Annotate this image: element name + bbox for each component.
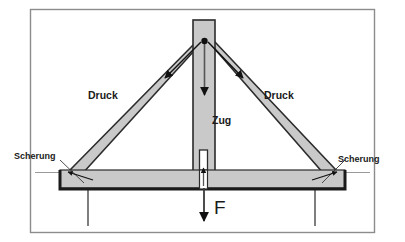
label-tension-center: Zug [212,115,231,126]
label-force: F [214,198,226,217]
truss-diagram [0,0,405,242]
label-shear-left: Scherung [14,152,56,161]
label-compression-right: Druck [264,90,294,101]
apex-joint-node [201,38,207,44]
label-shear-right: Scherung [338,155,380,164]
diagram-canvas: Druck Druck Zug Scherung Scherung F [0,0,405,242]
label-compression-left: Druck [88,90,118,101]
